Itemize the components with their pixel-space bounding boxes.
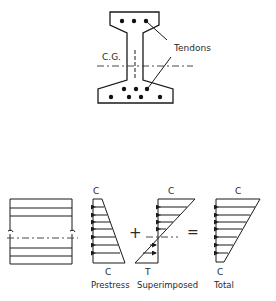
- total-stress-diagram: C C Total: [213, 186, 260, 290]
- superimposed-bottom-label: T: [144, 267, 151, 277]
- tendon-dot: [127, 95, 131, 99]
- tendons-label: Tendons: [173, 43, 211, 53]
- tendon-dot: [120, 19, 124, 23]
- tendons-leader-top: [147, 22, 167, 40]
- total-arrows: [218, 207, 255, 253]
- top-tendons: [120, 19, 148, 23]
- tendon-dot: [158, 95, 162, 99]
- superimposed-top-label: C: [168, 186, 174, 196]
- prestress-caption: Prestress: [91, 280, 130, 290]
- equals-operator: =: [187, 224, 199, 240]
- tendon-dot: [109, 95, 113, 99]
- prestressed-beam-diagram: C.G. Tendons: [0, 0, 276, 301]
- break-mark-right: [70, 230, 75, 232]
- tendon-dot: [134, 87, 138, 91]
- prestress-top-label: C: [93, 186, 99, 196]
- prestress-bottom-label: C: [105, 267, 111, 277]
- superimposed-caption: Superimposed: [137, 280, 198, 290]
- tendon-dot: [122, 87, 126, 91]
- total-caption: Total: [213, 280, 234, 290]
- prestress-stress-diagram: C C Prestress: [91, 186, 130, 290]
- tendon-dot: [139, 95, 143, 99]
- bottom-tendons: [109, 87, 162, 99]
- cg-label: C.G.: [102, 52, 121, 62]
- i-beam-cross-section: C.G. Tendons: [97, 12, 211, 103]
- total-top-label: C: [235, 186, 241, 196]
- total-bottom-label: C: [217, 267, 223, 277]
- tendons-leader-bottom: [148, 57, 171, 88]
- tendon-dot: [132, 19, 136, 23]
- break-mark-left: [8, 230, 13, 232]
- plus-operator: +: [129, 224, 142, 242]
- beam-elevation: [7, 199, 78, 264]
